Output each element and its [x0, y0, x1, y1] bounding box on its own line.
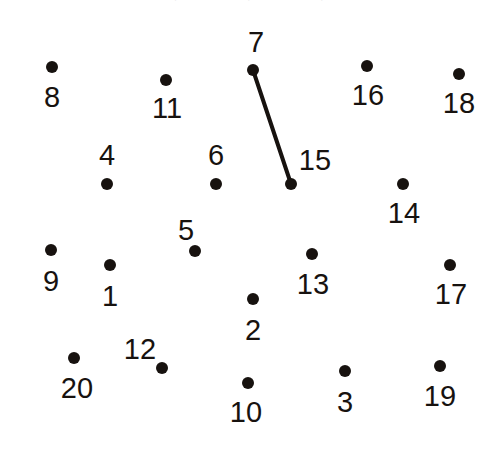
dot-label-6: 6 — [208, 141, 224, 170]
dot-label-4: 4 — [99, 141, 115, 170]
dot-label-16: 16 — [352, 81, 384, 110]
dot-label-15: 15 — [299, 146, 331, 175]
dot-label-13: 13 — [297, 270, 329, 299]
dot-label-19: 19 — [424, 382, 456, 411]
dot-number-label-layer: 1234567891011121314151617181920 — [0, 0, 498, 450]
dot-label-18: 18 — [443, 89, 475, 118]
connect-the-dots-worksheet: Connect the dots 1 to 20 etc, 1 to 20 et… — [0, 0, 498, 450]
dot-label-9: 9 — [43, 267, 59, 296]
dot-label-1: 1 — [102, 282, 118, 311]
dot-label-11: 11 — [152, 94, 182, 123]
dot-label-14: 14 — [388, 199, 420, 228]
dot-label-20: 20 — [61, 374, 93, 403]
dot-label-17: 17 — [435, 280, 467, 309]
dot-label-8: 8 — [44, 83, 60, 112]
dot-label-5: 5 — [178, 216, 194, 245]
dot-label-3: 3 — [337, 388, 353, 417]
dot-label-7: 7 — [248, 28, 264, 57]
dot-label-2: 2 — [245, 316, 261, 345]
dot-label-12: 12 — [124, 335, 156, 364]
dot-label-10: 10 — [230, 398, 262, 427]
